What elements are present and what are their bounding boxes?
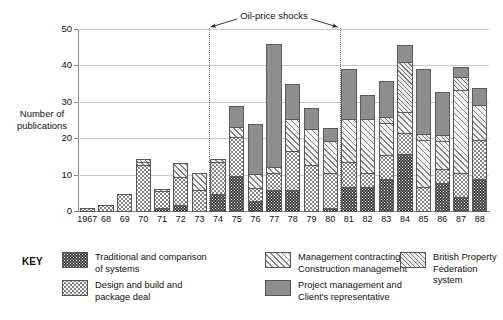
bar-81[interactable] bbox=[341, 29, 356, 211]
y-axis-label-line1: Number of bbox=[20, 108, 64, 119]
legend-label-0: Traditional and comparison of systems bbox=[95, 252, 207, 275]
bar-segment-design bbox=[136, 165, 151, 212]
oil-shock-line-right bbox=[340, 28, 341, 211]
bar-segment-management bbox=[323, 141, 338, 174]
bar-71[interactable] bbox=[154, 29, 169, 211]
bar-80[interactable] bbox=[323, 29, 338, 211]
bar-segment-project bbox=[248, 124, 263, 175]
bar-segment-design bbox=[416, 187, 431, 212]
y-tick-mark-10 bbox=[74, 175, 78, 176]
bar-segment-traditional bbox=[341, 187, 356, 212]
bar-segment-management bbox=[472, 105, 487, 141]
bar-segment-management bbox=[304, 129, 319, 165]
legend-swatch-solid-gray bbox=[265, 280, 291, 296]
bar-segment-traditional bbox=[210, 194, 225, 212]
legend-label-3: Project management and Client's represen… bbox=[298, 280, 402, 303]
bar-83[interactable] bbox=[379, 29, 394, 211]
bar-segment-design bbox=[360, 173, 375, 188]
bar-segment-traditional bbox=[379, 179, 394, 212]
bar-segment-project bbox=[285, 84, 300, 120]
y-tick-label-20: 20 bbox=[46, 132, 72, 143]
bar-79[interactable] bbox=[304, 29, 319, 211]
bar-segment-management bbox=[379, 123, 394, 156]
bar-segment-design bbox=[98, 205, 113, 212]
bar-segment-design bbox=[173, 177, 188, 206]
bar-segment-management bbox=[173, 163, 188, 178]
bar-73[interactable] bbox=[192, 29, 207, 211]
bar-segment-project bbox=[266, 44, 281, 168]
legend-item-1[interactable]: Design and build and package deal bbox=[62, 280, 182, 303]
chart-root: Number of publications 01020304050 19676… bbox=[0, 0, 503, 320]
bar-segment-management bbox=[248, 174, 263, 189]
y-tick-label-0: 0 bbox=[46, 205, 72, 216]
legend-swatch-narrow-hatch bbox=[400, 252, 426, 268]
bar-segment-traditional bbox=[360, 187, 375, 212]
bar-85[interactable] bbox=[416, 29, 431, 211]
bar-segment-design bbox=[397, 133, 412, 155]
bar-segment-design bbox=[192, 190, 207, 212]
bar-segment-management bbox=[285, 119, 300, 152]
bar-72[interactable] bbox=[173, 29, 188, 211]
bar-segment-project bbox=[323, 128, 338, 143]
bar-segment-management bbox=[360, 119, 375, 174]
bar-segment-design bbox=[435, 169, 450, 184]
bar-segment-traditional bbox=[248, 201, 263, 212]
bar-segment-design bbox=[285, 151, 300, 191]
bar-segment-project bbox=[360, 95, 375, 120]
oil-shock-line-left bbox=[209, 28, 210, 211]
bar-1967[interactable] bbox=[80, 29, 95, 211]
bar-78[interactable] bbox=[285, 29, 300, 211]
bar-segment-project bbox=[341, 69, 356, 120]
bar-segment-traditional bbox=[472, 179, 487, 212]
y-tick-mark-0 bbox=[74, 211, 78, 212]
bar-segment-project bbox=[416, 69, 431, 135]
y-tick-mark-30 bbox=[74, 102, 78, 103]
bar-75[interactable] bbox=[229, 29, 244, 211]
bar-segment-bpf bbox=[397, 62, 412, 113]
bar-77[interactable] bbox=[266, 29, 281, 211]
bar-87[interactable] bbox=[453, 29, 468, 211]
y-axis-label: Number of publications bbox=[8, 108, 76, 132]
bar-segment-management bbox=[341, 119, 356, 163]
bar-segment-design bbox=[453, 173, 468, 198]
legend-title: KEY bbox=[22, 256, 43, 267]
bar-82[interactable] bbox=[360, 29, 375, 211]
bar-segment-project bbox=[435, 92, 450, 136]
bar-86[interactable] bbox=[435, 29, 450, 211]
bar-69[interactable] bbox=[117, 29, 132, 211]
legend-item-0[interactable]: Traditional and comparison of systems bbox=[62, 252, 207, 275]
bar-segment-traditional bbox=[397, 154, 412, 212]
bar-segment-bpf bbox=[453, 77, 468, 92]
bar-segment-management bbox=[397, 112, 412, 134]
legend-label-4: British Property Federation system bbox=[433, 252, 503, 287]
bar-84[interactable] bbox=[397, 29, 412, 211]
legend-item-2[interactable]: Management contracting and Construction … bbox=[265, 252, 418, 275]
y-tick-mark-20 bbox=[74, 138, 78, 139]
bar-70[interactable] bbox=[136, 29, 151, 211]
legend-swatch-dark-checker bbox=[62, 252, 88, 268]
bar-segment-project bbox=[397, 45, 412, 63]
legend-item-4[interactable]: British Property Federation system bbox=[400, 252, 503, 287]
bar-segment-design bbox=[379, 155, 394, 180]
legend-swatch-wide-hatch bbox=[265, 252, 291, 268]
bar-segment-design bbox=[248, 188, 263, 203]
bar-88[interactable] bbox=[472, 29, 487, 211]
bar-segment-traditional bbox=[266, 190, 281, 212]
bar-segment-traditional bbox=[435, 183, 450, 212]
bar-74[interactable] bbox=[210, 29, 225, 211]
y-axis-label-line2: publications bbox=[17, 120, 67, 131]
bar-segment-design bbox=[80, 208, 95, 212]
bar-segment-management bbox=[416, 140, 431, 187]
bar-segment-project bbox=[379, 81, 394, 117]
bar-segment-design bbox=[323, 173, 338, 209]
bar-segment-design bbox=[117, 194, 132, 212]
legend-label-1: Design and build and package deal bbox=[95, 280, 182, 303]
bar-segment-project bbox=[304, 108, 319, 130]
y-tick-label-30: 30 bbox=[46, 96, 72, 107]
plot-area bbox=[78, 29, 489, 211]
legend-swatch-fine-dots bbox=[62, 280, 88, 296]
x-tick-label-88: 88 bbox=[468, 214, 492, 224]
bar-76[interactable] bbox=[248, 29, 263, 211]
legend-item-3[interactable]: Project management and Client's represen… bbox=[265, 280, 402, 303]
bar-68[interactable] bbox=[98, 29, 113, 211]
